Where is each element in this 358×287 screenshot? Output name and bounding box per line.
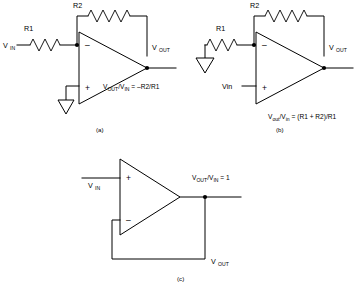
circuit-c-minus-sign: –: [126, 215, 131, 225]
circuit-c-input-label: V: [88, 181, 93, 190]
circuit-c-group: + – V IN V OUT VOUT/VIN = 1 (c): [0, 0, 358, 287]
circuit-c-input-sublabel: IN: [95, 185, 100, 191]
circuit-c-equation: VOUT/VIN = 1: [192, 174, 230, 183]
circuit-c-output-node-dot: [203, 195, 207, 199]
circuit-c-caption: (c): [177, 275, 184, 282]
circuit-c-plus-sign: +: [126, 173, 131, 183]
circuit-c-output-sublabel: OUT: [218, 261, 229, 267]
circuit-c-output-label: V: [211, 257, 216, 266]
figure-canvas: V IN R2 R1 – + V OUT VOUT/VIN = –R2/R1 (…: [0, 0, 358, 287]
